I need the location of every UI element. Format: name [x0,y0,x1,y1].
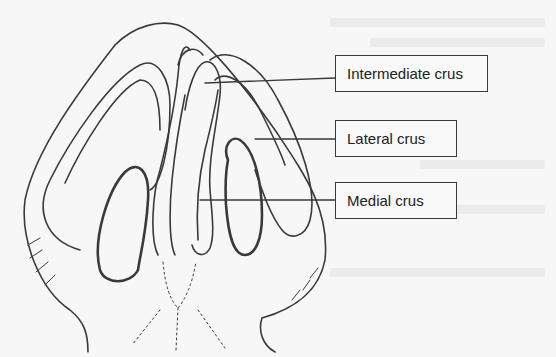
label-medial-crus: Medial crus [335,182,457,219]
leader-line-intermediate [205,78,335,83]
label-text: Medial crus [347,192,424,209]
right-medial-crus-inner [197,90,218,240]
label-text: Lateral crus [347,130,425,147]
left-nostril [98,167,148,281]
nose-outline [24,23,325,352]
label-intermediate-crus: Intermediate crus [335,55,488,92]
label-text: Intermediate crus [347,65,463,82]
right-nostril [226,139,262,255]
lip-dotted [132,308,225,350]
left-medial-crus [153,47,190,255]
midline-dotted [163,262,196,308]
nose-cartilage-drawing [0,0,556,357]
left-medial-crus-inner [170,95,185,255]
left-lateral-crus [65,80,160,183]
label-lateral-crus: Lateral crus [335,120,457,157]
left-ala-outline [43,63,170,250]
